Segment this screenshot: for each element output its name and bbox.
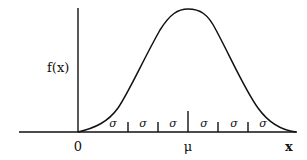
x-axis-label: x	[285, 140, 293, 153]
y-axis-label: f(x)	[47, 61, 69, 74]
mean-label: μ	[184, 140, 192, 153]
sigma-label: σ	[200, 118, 208, 129]
sigma-label: σ	[259, 118, 267, 129]
sigma-label: σ	[169, 118, 177, 129]
sigma-label: σ	[109, 118, 117, 129]
normal-distribution-diagram: f(x) σ σ σ σ σ σ 0 μ x	[0, 0, 307, 160]
bell-curve	[78, 9, 296, 132]
sigma-label: σ	[230, 118, 238, 129]
origin-label: 0	[74, 140, 82, 153]
diagram-canvas	[0, 0, 307, 160]
sigma-label: σ	[139, 118, 147, 129]
